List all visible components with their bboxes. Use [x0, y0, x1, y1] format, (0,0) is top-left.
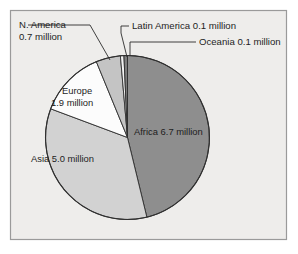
label-n-america-line2: 0.7 million — [19, 31, 62, 42]
pie-slices-group — [45, 56, 209, 220]
label-n-america-line1: N. America — [19, 19, 67, 30]
chart-canvas: N. America 0.7 million Latin America 0.1… — [0, 0, 298, 254]
label-asia: Asia 5.0 million — [31, 153, 94, 164]
label-europe-line2: 1.9 million — [51, 97, 93, 108]
label-oceania: Oceania 0.1 million — [199, 36, 281, 47]
label-africa: Africa 6.7 million — [134, 126, 203, 137]
label-latin-america: Latin America 0.1 million — [132, 20, 236, 31]
label-europe-line1: Europe — [62, 85, 92, 96]
pie-chart-figure: N. America 0.7 million Latin America 0.1… — [0, 0, 298, 254]
